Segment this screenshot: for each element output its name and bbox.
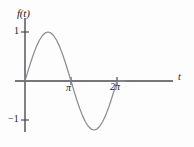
x-axis-label: t [178, 72, 181, 82]
y-axis-label: f(t) [17, 8, 30, 19]
x-tick-label-two-pi: 2π [110, 82, 120, 92]
plot-canvas [0, 0, 194, 147]
y-tick-label-negative-one: −1 [8, 114, 19, 124]
x-tick-label-pi: π [66, 83, 71, 93]
sine-wave-figure: f(t) t 1 −1 π 2π [0, 0, 194, 147]
x-tick-label-two-pi-symbol: π [115, 81, 120, 92]
y-tick-label-positive-one: 1 [14, 26, 19, 36]
